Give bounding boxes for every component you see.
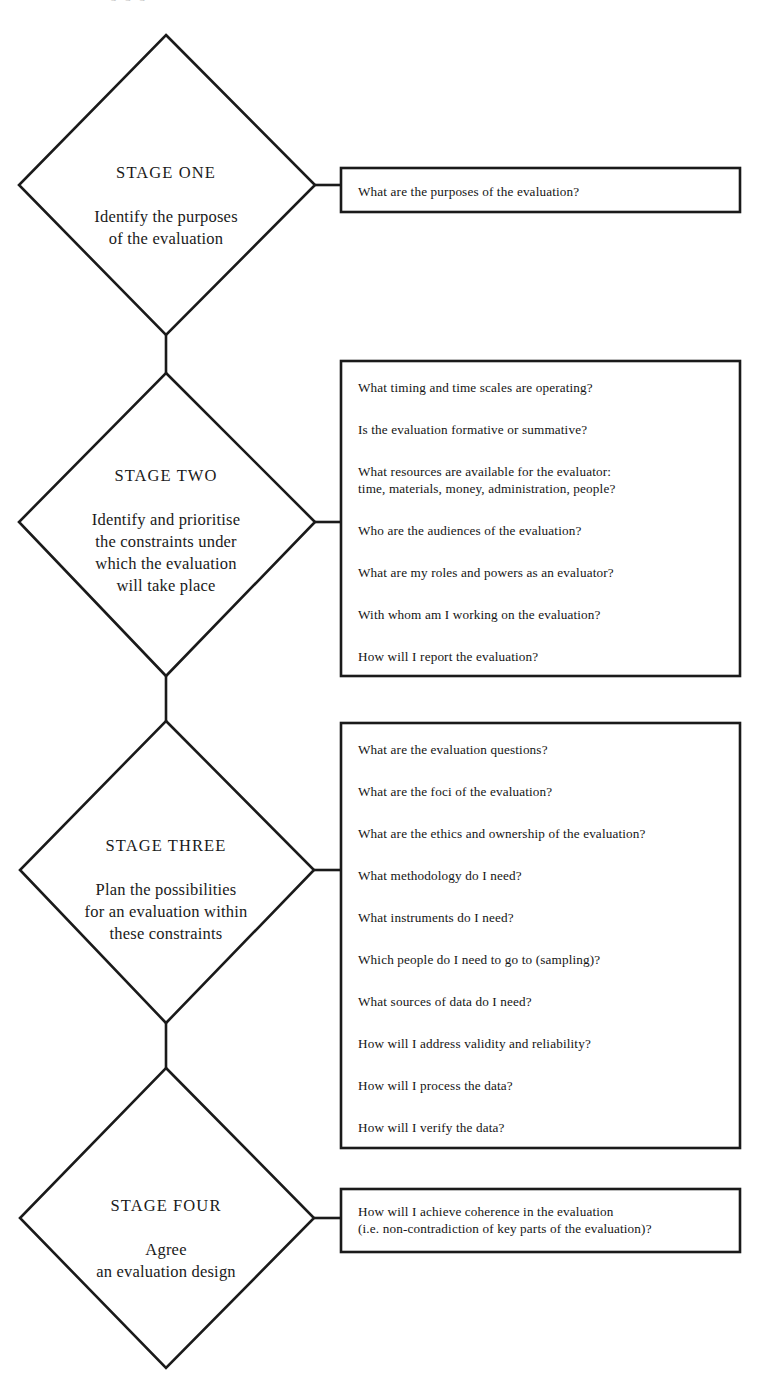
question-item: What are the foci of the evaluation? xyxy=(358,783,728,825)
question-item: What timing and time scales are operatin… xyxy=(358,379,728,421)
question-item: What sources of data do I need? xyxy=(358,993,728,1035)
question-item: How will I verify the data? xyxy=(358,1119,728,1161)
question-list-stage-one: What are the purposes of the evaluation? xyxy=(358,183,728,200)
question-item: What are my roles and powers as an evalu… xyxy=(358,564,728,606)
question-item: How will I process the data? xyxy=(358,1077,728,1119)
question-item: Who are the audiences of the evaluation? xyxy=(358,522,728,564)
question-item: Which people do I need to go to (samplin… xyxy=(358,951,728,993)
question-item: How will I report the evaluation? xyxy=(358,648,728,690)
question-item: What methodology do I need? xyxy=(358,867,728,909)
question-item: What are the evaluation questions? xyxy=(358,741,728,783)
question-list-stage-two: What timing and time scales are operatin… xyxy=(358,379,728,690)
flowchart-page: a a a STAGE ONE Identify the purposes of… xyxy=(0,0,765,1373)
question-item: Is the evaluation formative or summative… xyxy=(358,421,728,463)
question-list-stage-four: How will I achieve coherence in the eval… xyxy=(358,1203,728,1237)
question-item: What are the purposes of the evaluation? xyxy=(358,183,728,200)
question-item: What instruments do I need? xyxy=(358,909,728,951)
question-item: What resources are available for the eva… xyxy=(358,463,728,522)
question-item: What are the ethics and ownership of the… xyxy=(358,825,728,867)
diamond-stage-three[interactable] xyxy=(20,721,314,1023)
question-item: With whom am I working on the evaluation… xyxy=(358,606,728,648)
diamond-stage-one[interactable] xyxy=(19,35,315,335)
diamond-stage-two[interactable] xyxy=(19,373,315,676)
question-item: How will I achieve coherence in the eval… xyxy=(358,1203,728,1237)
question-list-stage-three: What are the evaluation questions? What … xyxy=(358,741,728,1161)
diamond-stage-four[interactable] xyxy=(20,1068,314,1368)
question-item: How will I address validity and reliabil… xyxy=(358,1035,728,1077)
